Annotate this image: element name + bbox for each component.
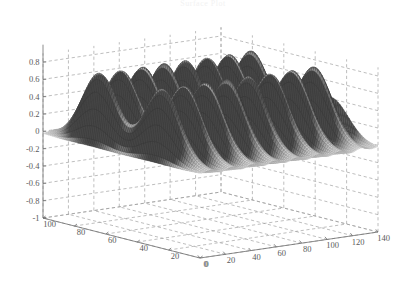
z-tick-label: -0.4 — [26, 161, 40, 171]
x-tick-label: 60 — [278, 248, 287, 258]
y-tick-label: 40 — [139, 243, 148, 253]
x-tick-label: 80 — [303, 244, 312, 254]
z-tick-label: 0.2 — [29, 109, 40, 119]
z-tick-label: 0 — [35, 126, 39, 136]
x-tick-label: 120 — [352, 237, 365, 247]
z-tick-label: 0.8 — [29, 57, 40, 67]
y-tick-label: 20 — [171, 251, 180, 261]
y-tick-label: 60 — [108, 235, 117, 245]
x-tick-label: 20 — [227, 255, 236, 265]
z-tick-label: -0.8 — [26, 196, 39, 206]
y-tick-label: 100 — [43, 219, 56, 229]
figure-root: Surface Plot 0.80.60.40.20-0.2-0.4-0.6-0… — [0, 0, 406, 306]
y-tick-label: 80 — [77, 227, 86, 237]
surface-mesh — [43, 51, 378, 173]
z-tick-label: -0.2 — [26, 144, 39, 154]
x-tick-label: 100 — [326, 240, 339, 250]
x-tick-label: 140 — [377, 233, 390, 243]
z-tick-label: -1 — [32, 213, 39, 223]
x-tick-label: 40 — [252, 252, 261, 262]
x-tick-label: 0 — [203, 259, 207, 269]
surface-plot-canvas: 0.80.60.40.20-0.2-0.4-0.6-0.8-1100806040… — [0, 0, 406, 306]
z-tick-label: -0.6 — [26, 178, 39, 188]
z-tick-label: 0.6 — [29, 74, 40, 84]
z-tick-label: 0.4 — [29, 92, 40, 102]
